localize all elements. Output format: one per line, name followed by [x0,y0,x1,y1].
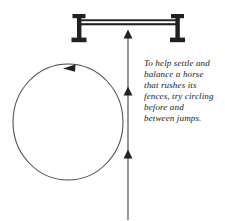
approach-arrowhead-middle-icon [124,87,133,96]
caption-line-2: balance a horse [144,69,225,80]
approach-track-group [124,30,133,221]
caption-line-4: fences, try circling [144,91,225,102]
caption-text-block: To help settle and balance a horse that … [144,58,225,125]
circling-path-ellipse [13,64,123,180]
caption-line-5: before and [144,102,225,113]
caption-line-1: To help settle and [144,58,225,69]
approach-arrowhead-lower-icon [124,150,133,159]
jump-left-post-icon [72,14,87,42]
caption-line-6: between jumps. [144,113,225,124]
caption-line-3: that rushes its [144,80,225,91]
approach-arrowhead-top-icon [124,30,133,39]
horse-jump-circling-diagram: To help settle and balance a horse that … [0,0,225,220]
circle-direction-arrowhead-icon [63,65,76,72]
jump-right-post-icon [170,14,185,42]
circling-path-group [13,64,123,180]
jump-rail-icon [81,19,176,25]
